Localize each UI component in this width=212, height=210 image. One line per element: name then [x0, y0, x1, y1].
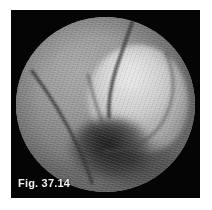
figure-root: Fig. 37.14: [0, 0, 212, 210]
photograph-frame: Fig. 37.14: [11, 10, 200, 198]
arthroscopic-field-of-view: [16, 17, 195, 192]
figure-caption: Fig. 37.14: [16, 176, 73, 190]
scope-vignette: [16, 17, 195, 192]
